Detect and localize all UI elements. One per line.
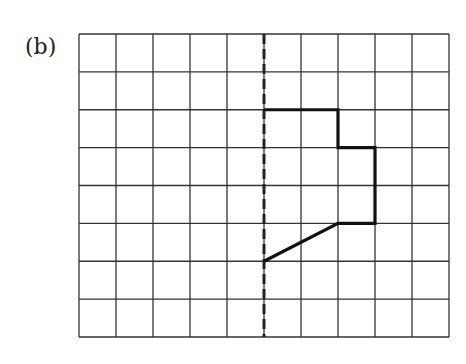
grid-diagram xyxy=(0,0,466,364)
